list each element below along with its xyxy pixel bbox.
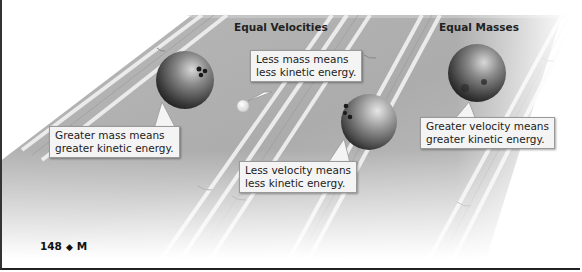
page-folio: 148◆M — [40, 240, 87, 252]
callout-greater-velocity: Greater velocity means greater kinetic e… — [420, 117, 555, 149]
callout-less-mass: Less mass means less kinetic energy. — [250, 50, 362, 82]
callout-line: Greater velocity means — [426, 120, 549, 133]
small-ball — [237, 100, 249, 112]
callout-line: Greater mass means — [55, 129, 174, 142]
section-letter: M — [77, 240, 87, 252]
large-bowling-ball — [156, 51, 214, 109]
callout-line: Less velocity means — [245, 164, 351, 177]
callout-line: less kinetic energy. — [256, 66, 356, 79]
slow-bowling-ball — [341, 94, 397, 150]
callout-line: greater kinetic energy. — [426, 133, 549, 146]
fast-bowling-ball — [448, 44, 506, 102]
textbook-page: Equal Velocities Equal Masses Greater ma… — [0, 0, 580, 270]
heading-equal-masses: Equal Masses — [439, 21, 519, 33]
page-number: 148 — [40, 240, 62, 252]
diamond-separator-icon: ◆ — [66, 242, 73, 252]
callout-greater-mass: Greater mass means greater kinetic energ… — [49, 126, 180, 158]
callout-line: Less mass means — [256, 53, 356, 66]
callout-line: less kinetic energy. — [245, 177, 351, 190]
callout-less-velocity: Less velocity means less kinetic energy. — [239, 161, 357, 193]
callout-line: greater kinetic energy. — [55, 142, 174, 155]
heading-equal-velocities: Equal Velocities — [234, 21, 328, 33]
